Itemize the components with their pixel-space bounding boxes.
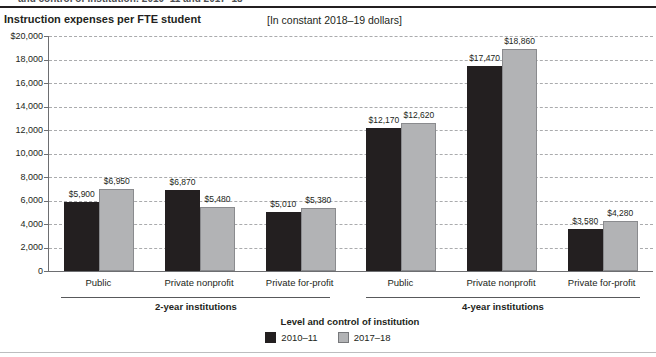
gridline xyxy=(49,60,653,61)
bar-2017-18 xyxy=(502,49,537,271)
legend-label-2017-18: 2017–18 xyxy=(354,332,391,343)
legend-item-2017-18: 2017–18 xyxy=(338,332,391,343)
section-label-2-year: 2-year institutions xyxy=(155,301,237,312)
bar-2010-11 xyxy=(165,190,200,271)
legend-label-2010-11: 2010–11 xyxy=(281,332,317,343)
y-axis-tick-label: 6,000 xyxy=(0,195,43,206)
legend-swatch-2017-18-icon xyxy=(338,332,349,343)
x-axis-title: Level and control of institution xyxy=(48,316,652,327)
gridline xyxy=(49,154,653,155)
section-label-4-year: 4-year institutions xyxy=(462,301,544,312)
legend-swatch-2010-11-icon xyxy=(265,332,276,343)
gridline xyxy=(49,248,653,249)
y-axis-tick-label: 12,000 xyxy=(0,125,43,136)
y-axis-tick-label: 8,000 xyxy=(0,172,43,183)
clipped-figure-caption: and control of institution: 2010–11 and … xyxy=(18,0,243,4)
bar-value-label: $17,470 xyxy=(469,53,500,63)
top-rule xyxy=(0,6,656,8)
y-axis-tick-label: $20,000 xyxy=(0,31,43,42)
gridline xyxy=(49,177,653,178)
bar-value-label: $18,860 xyxy=(504,36,535,46)
bar-value-label: $12,620 xyxy=(403,110,434,120)
x-category-label: Private for-profit xyxy=(568,277,636,288)
bar-2017-18 xyxy=(200,207,235,271)
bar-value-label: $3,580 xyxy=(572,216,598,226)
chart-subtitle: [In constant 2018–19 dollars] xyxy=(267,14,402,26)
bar-value-label: $5,900 xyxy=(69,189,95,199)
bar-2010-11 xyxy=(64,202,99,271)
bar-value-label: $5,480 xyxy=(205,194,231,204)
x-category-label: Private nonprofit xyxy=(164,277,233,288)
bar-value-label: $6,870 xyxy=(170,177,196,187)
y-axis-tick-label: 0 xyxy=(0,266,43,277)
y-axis-tick-label: 16,000 xyxy=(0,78,43,89)
gridline xyxy=(49,130,653,131)
legend: 2010–11 2017–18 xyxy=(0,332,656,343)
gridline xyxy=(49,201,653,202)
y-axis-tick-label: 18,000 xyxy=(0,54,43,65)
x-category-label: Private for-profit xyxy=(266,277,334,288)
x-category-label: Public xyxy=(85,277,111,288)
bar-2010-11 xyxy=(266,212,301,271)
section-rule-2-year xyxy=(61,297,330,298)
bar-2017-18 xyxy=(401,123,436,271)
x-category-label: Public xyxy=(387,277,413,288)
gridline xyxy=(49,36,653,37)
legend-item-2010-11: 2010–11 xyxy=(265,332,317,343)
bar-value-label: $4,280 xyxy=(607,208,633,218)
y-axis-tick-label: 4,000 xyxy=(0,219,43,230)
bar-value-label: $5,010 xyxy=(270,199,296,209)
gridline xyxy=(49,224,653,225)
chart-title: Instruction expenses per FTE student xyxy=(4,13,201,25)
gridline xyxy=(49,107,653,108)
y-axis-tick-label: 2,000 xyxy=(0,242,43,253)
bar-2017-18 xyxy=(99,189,134,271)
section-rule-4-year xyxy=(366,297,640,298)
bar-2010-11 xyxy=(467,66,502,271)
plot-area: $5,900$6,950$6,870$5,480$5,010$5,380$12,… xyxy=(48,36,653,272)
y-axis-tick-label: 10,000 xyxy=(0,148,43,159)
bar-2017-18 xyxy=(301,208,336,271)
y-axis-tick-label: 14,000 xyxy=(0,101,43,112)
bar-value-label: $12,170 xyxy=(368,115,399,125)
x-category-label: Private nonprofit xyxy=(466,277,535,288)
bar-2010-11 xyxy=(568,229,603,271)
gridline xyxy=(49,83,653,84)
bar-value-label: $6,950 xyxy=(104,176,130,186)
bar-2010-11 xyxy=(366,128,401,271)
bottom-rule xyxy=(0,352,656,353)
bar-2017-18 xyxy=(603,221,638,271)
figure-instruction-expenses-chart: and control of institution: 2010–11 and … xyxy=(0,0,656,357)
bar-value-label: $5,380 xyxy=(305,195,331,205)
